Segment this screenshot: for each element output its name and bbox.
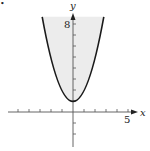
item-marker: • bbox=[0, 0, 5, 8]
x-tick-label-5: 5 bbox=[124, 114, 130, 125]
x-axis-arrow-icon bbox=[131, 110, 138, 115]
y-tick-label-8: 8 bbox=[64, 19, 70, 30]
y-axis-label: y bbox=[69, 0, 76, 11]
x-axis-label: x bbox=[140, 107, 146, 118]
parabola-plot: • y 8 x 5 bbox=[0, 0, 150, 151]
y-axis-arrow-icon bbox=[71, 13, 76, 20]
